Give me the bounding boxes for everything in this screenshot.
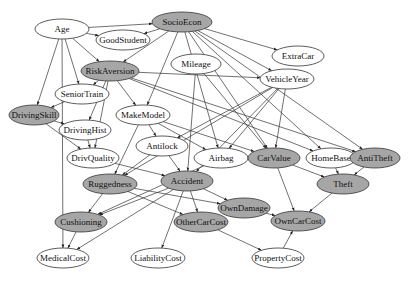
edge-riskaversion-to-makemodel — [117, 81, 136, 106]
edge-antilock-to-ruggedness — [122, 155, 150, 175]
edge-age-to-socioecon — [89, 24, 153, 28]
node-label: SocioEcon — [163, 17, 202, 27]
edge-riskaversion-to-seniortrain — [93, 80, 99, 85]
edge-propertycost-to-owncarcost — [283, 231, 292, 248]
edge-carvalue-to-owncarcost — [278, 168, 294, 211]
node-theft: Theft — [317, 174, 369, 194]
node-label: SeniorTrain — [61, 89, 104, 99]
node-label: DrivingHist — [63, 125, 107, 135]
edge-accident-to-owndamage — [203, 189, 227, 200]
node-carvalue: CarValue — [248, 148, 300, 168]
node-goodstudent: GoodStudent — [96, 30, 150, 50]
node-label: DrivingSkill — [11, 110, 57, 120]
node-propertycost: PropertyCost — [252, 248, 304, 268]
edge-drivingskill-to-drivinghist — [54, 121, 64, 124]
node-label: Mileage — [181, 59, 211, 69]
edge-drivinghist-to-drivquality — [88, 140, 90, 148]
node-label: AntiTheft — [357, 153, 393, 163]
edge-age-to-seniortrain — [65, 39, 79, 84]
node-age: Age — [35, 19, 89, 39]
node-label: DrivQuality — [71, 153, 115, 163]
node-vehicleyear: VehicleYear — [260, 69, 314, 89]
node-label: MakeModel — [121, 110, 165, 120]
edge-socioecon-to-antitheft — [195, 31, 363, 149]
node-drivquality: DrivQuality — [67, 148, 119, 168]
edge-mileage-to-carvalue — [204, 73, 266, 148]
edge-cushioning-to-medicalcost — [68, 232, 76, 248]
edge-ruggedness-to-cushioning — [88, 194, 102, 213]
edge-age-to-riskaversion — [73, 38, 100, 61]
node-extracar: ExtraCar — [272, 46, 324, 66]
edge-othercarcost-to-propertycost — [218, 230, 262, 250]
node-label: MedicalCost — [40, 253, 86, 263]
edge-homebase-to-theft — [336, 168, 339, 174]
edge-socioecon-to-extracar — [205, 29, 278, 50]
node-label: GoodStudent — [99, 35, 147, 45]
node-cushioning: Cushioning — [55, 212, 107, 232]
node-socioecon: SocioEcon — [152, 12, 212, 32]
bayesian-network-diagram: AgeSocioEconGoodStudentRiskAversionMilea… — [0, 0, 410, 281]
edge-makemodel-to-antilock — [149, 125, 156, 137]
edge-antitheft-to-theft — [354, 167, 364, 175]
node-medicalcost: MedicalCost — [37, 248, 89, 268]
node-label: Airbag — [209, 153, 234, 163]
node-antitheft: AntiTheft — [350, 148, 400, 168]
edge-age-to-goodstudent — [86, 33, 98, 35]
node-label: Cushioning — [60, 217, 102, 227]
node-label: LiabilityCost — [134, 253, 182, 263]
node-mileage: Mileage — [171, 54, 221, 74]
edge-socioecon-to-carvalue — [189, 32, 268, 149]
nodes-layer: AgeSocioEconGoodStudentRiskAversionMilea… — [9, 12, 400, 268]
node-label: CarValue — [257, 153, 291, 163]
node-othercarcost: OtherCarCost — [174, 212, 228, 232]
node-label: OwnCarCost — [275, 216, 322, 226]
node-label: RiskAversion — [86, 66, 135, 76]
node-owncarcost: OwnCarCost — [271, 211, 325, 231]
node-ruggedness: Ruggedness — [83, 174, 137, 194]
node-makemodel: MakeModel — [116, 105, 170, 125]
node-label: HomeBase — [311, 153, 351, 163]
node-drivinghist: DrivingHist — [59, 120, 111, 140]
node-label: Accident — [171, 176, 204, 186]
edge-drivquality-to-accident — [115, 163, 165, 175]
node-drivingskill: DrivingSkill — [9, 105, 59, 125]
edge-vehicleyear-to-antilock — [177, 87, 271, 138]
node-label: Ruggedness — [88, 179, 132, 189]
node-label: Age — [55, 24, 70, 34]
edge-makemodel-to-ruggedness — [115, 125, 139, 174]
edge-theft-to-owncarcost — [309, 193, 332, 212]
edge-vehicleyear-to-airbag — [229, 89, 279, 149]
node-liabilitycost: LiabilityCost — [131, 248, 185, 268]
edge-accident-to-othercarcost — [190, 191, 197, 212]
node-label: OwnDamage — [220, 203, 267, 213]
edge-ruggedness-to-othercarcost — [128, 191, 183, 214]
node-label: Theft — [333, 179, 353, 189]
node-owndamage: OwnDamage — [218, 198, 270, 218]
node-accident: Accident — [161, 171, 213, 191]
node-label: PropertyCost — [254, 253, 302, 263]
node-label: OtherCarCost — [176, 217, 226, 227]
node-airbag: Airbag — [194, 148, 248, 168]
edge-socioecon-to-goodstudent — [144, 29, 160, 34]
node-seniortrain: SeniorTrain — [55, 84, 109, 104]
node-label: VehicleYear — [265, 74, 309, 84]
edge-antilock-to-accident — [169, 156, 180, 172]
node-antilock: Antilock — [136, 136, 188, 156]
node-label: ExtraCar — [282, 51, 314, 61]
node-riskaversion: RiskAversion — [81, 61, 139, 81]
node-homebase: HomeBase — [306, 148, 356, 168]
node-label: Antilock — [146, 141, 178, 151]
